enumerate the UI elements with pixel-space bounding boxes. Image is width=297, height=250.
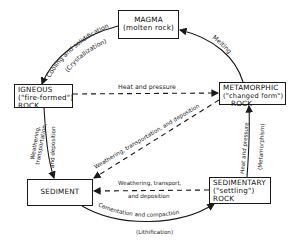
arrow-melting [180,30,243,82]
label-lithification: (Lithification) [136,229,173,235]
svg-text:Cementation and compaction: Cementation and compaction [98,201,181,218]
metamorphic-title: METAMORPHIC [223,84,282,92]
label-cementation: Cementation and compaction [98,201,181,218]
node-sediment: SEDIMENT [27,179,93,206]
node-sedimentary: SEDIMENTARY ("settling") ROCK [209,177,271,204]
svg-text:Weathering, transportation, an: Weathering, transportation, and depositi… [93,102,200,169]
arrow-sedimentary-to-sediment [94,190,209,191]
label-weathering-transport: Weathering, transport, [118,180,182,187]
metamorphic-rock: ROCK [223,100,282,108]
node-metamorphic: METAMORPHIC ("changed form") ROCK [219,82,286,105]
svg-text:and deposition: and deposition [49,126,57,168]
node-igneous: IGNEOUS ("fire-formed") ROCK [14,84,73,108]
label-and-deposition: and deposition [128,193,170,200]
svg-text:Cooling and solidification: Cooling and solidification [45,22,110,79]
arrow-igneous-to-metamorphic [73,93,218,94]
label-cooling: Cooling and solidification [45,22,110,79]
label-crystallization: (Crystallization) [63,37,107,73]
sedimentary-rock: ROCK [213,195,267,203]
label-heat-pressure-top: Heat and pressure [118,83,176,91]
label-weathering-diagonal: Weathering, transportation, and depositi… [93,102,200,169]
node-magma: MAGMA (molten rock) [118,10,179,39]
svg-text:(Crystallization): (Crystallization) [63,37,107,73]
sediment-title: SEDIMENT [31,188,89,196]
svg-text:(Metamorphism): (Metamorphism) [257,123,266,170]
magma-subtitle: (molten rock) [122,24,175,32]
igneous-rock: ROCK [18,102,69,110]
arrow-metamorphic-to-sediment [94,100,219,178]
